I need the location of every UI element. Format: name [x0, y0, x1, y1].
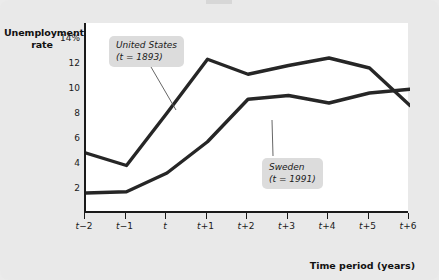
x-tick-label: t+4 [319, 221, 336, 231]
y-tick-label: 12 [46, 58, 80, 68]
callout-united-states: United States (t = 1893) [109, 36, 184, 67]
x-tick-label: t+1 [197, 221, 214, 231]
y-tick-label: 14% [46, 33, 80, 43]
callout-united-states-label: United States [116, 40, 177, 50]
x-tick-mark [84, 213, 85, 219]
x-tick-mark [287, 213, 288, 219]
callout-sweden: Sweden (t = 1991) [262, 158, 323, 189]
series-line-united-states [86, 58, 410, 166]
x-tick-mark [408, 213, 409, 219]
y-tick-label: 6 [46, 133, 80, 143]
y-tick-label: 8 [46, 108, 80, 118]
x-tick-label: t+6 [400, 221, 417, 231]
callout-united-states-sublabel: (t = 1893) [116, 51, 177, 63]
x-tick-label: t+5 [359, 221, 376, 231]
x-axis-title: Time period (years) [310, 260, 415, 271]
chart-figure: Unemployment rate 14%12108642 t−2t−1tt+1… [0, 0, 439, 280]
callout-sweden-sublabel: (t = 1991) [269, 173, 316, 185]
series-line-sweden [86, 89, 410, 193]
x-tick-label: t+2 [238, 221, 255, 231]
y-tick-label: 2 [46, 183, 80, 193]
x-tick-mark [206, 213, 207, 219]
x-tick-label: t [163, 221, 167, 231]
x-tick-mark [125, 213, 126, 219]
callout-sweden-label: Sweden [269, 162, 305, 172]
top-crop-artifact [206, 0, 232, 4]
x-tick-mark [327, 213, 328, 219]
x-tick-mark [368, 213, 369, 219]
y-tick-label: 4 [46, 158, 80, 168]
x-tick-label: t−2 [76, 221, 93, 231]
x-tick-mark [165, 213, 166, 219]
x-tick-label: t−1 [116, 221, 133, 231]
x-tick-mark [246, 213, 247, 219]
y-tick-label: 10 [46, 83, 80, 93]
y-tick-label-group: 14%12108642 [44, 23, 80, 213]
x-tick-label: t+3 [278, 221, 295, 231]
